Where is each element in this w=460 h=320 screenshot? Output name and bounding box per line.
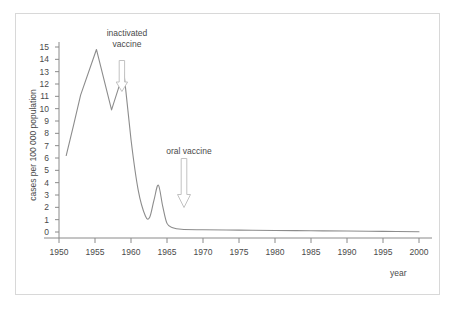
x-tick-label: 1950	[39, 248, 79, 257]
y-axis-ticks	[55, 47, 59, 232]
annotation-oral-line1: oral vaccine	[160, 146, 218, 157]
y-axis-title: cases per 100 000 population	[28, 65, 38, 225]
x-tick-label: 1955	[75, 248, 115, 257]
y-tick-label: 14	[29, 55, 49, 64]
annotation-inactivated-vaccine: inactivated vaccine	[96, 28, 158, 50]
x-tick-label: 1980	[255, 248, 295, 257]
annotation-inactivated-line2: vaccine	[96, 39, 158, 50]
x-tick-label: 1995	[363, 248, 403, 257]
annotation-oral-vaccine: oral vaccine	[160, 146, 218, 157]
polio-incidence-chart-figure: 0123456789101112131415 19501955196019651…	[0, 0, 460, 320]
x-tick-label: 1970	[183, 248, 223, 257]
annotation-inactivated-line1: inactivated	[96, 28, 158, 39]
x-axis-title: year	[390, 268, 407, 278]
x-tick-label: 1990	[327, 248, 367, 257]
x-tick-label: 1960	[111, 248, 151, 257]
x-tick-label: 2000	[399, 248, 439, 257]
x-axis-ticks	[59, 238, 419, 243]
x-tick-label: 1985	[291, 248, 331, 257]
y-tick-label: 15	[29, 43, 49, 52]
x-tick-label: 1965	[147, 248, 187, 257]
y-tick-label: 0	[29, 228, 49, 237]
x-tick-label: 1975	[219, 248, 259, 257]
oral-vaccine-arrow-icon	[178, 159, 191, 208]
